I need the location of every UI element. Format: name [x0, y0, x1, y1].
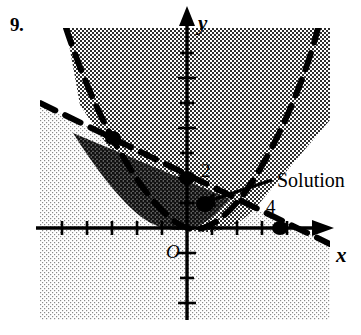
y-axis-arrowhead — [179, 6, 195, 26]
solution-label: Solution — [277, 169, 345, 191]
intersection-point-left — [105, 131, 121, 145]
y-intercept-point — [179, 171, 195, 185]
x-axis-arrowhead — [312, 220, 334, 236]
x-intercept-point — [272, 221, 288, 235]
figure-page: 9. — [0, 0, 361, 335]
x-intercept-label: 4 — [266, 196, 276, 217]
x-axis-label: x — [335, 243, 347, 267]
graph-figure: y x O 2 4 Solution — [0, 0, 361, 335]
origin-label: O — [166, 241, 180, 262]
y-intercept-label: 2 — [201, 160, 211, 181]
